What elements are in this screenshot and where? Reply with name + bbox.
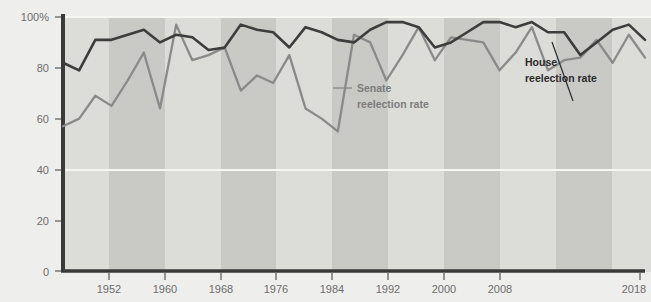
x-tick-label-2008: 2008	[488, 283, 512, 295]
band-light	[62, 17, 109, 272]
x-tick-label-1984: 1984	[320, 283, 344, 295]
y-tick-label-0: 0	[43, 266, 49, 278]
band-light	[276, 17, 332, 272]
x-tick-label-2000: 2000	[432, 283, 456, 295]
band-light	[165, 17, 221, 272]
y-tick-label-60: 60	[37, 113, 49, 125]
reelection-rate-chart: 100% 80 60 40 20 0 1952 1960 1968 1976 1…	[0, 0, 651, 302]
senate-annotation-line1: Senate	[357, 82, 392, 94]
x-tick-label-1968: 1968	[209, 283, 233, 295]
band-light	[388, 17, 444, 272]
alternating-bands	[62, 17, 651, 272]
x-tick-label-2018: 2018	[622, 283, 646, 295]
band-dark	[109, 17, 165, 272]
band-dark	[221, 17, 276, 272]
y-tick-label-100: 100%	[21, 11, 49, 23]
y-tick-label-20: 20	[37, 215, 49, 227]
y-tick-label-40: 40	[37, 164, 49, 176]
x-tick-label-1976: 1976	[264, 283, 288, 295]
senate-annotation-line2: reelection rate	[357, 98, 429, 110]
x-tick-label-1952: 1952	[97, 283, 121, 295]
house-annotation-line2: reelection rate	[525, 72, 597, 84]
x-tick-label-1960: 1960	[153, 283, 177, 295]
chart-canvas: 100% 80 60 40 20 0 1952 1960 1968 1976 1…	[0, 0, 651, 302]
y-tick-label-80: 80	[37, 62, 49, 74]
band-dark	[332, 17, 388, 272]
x-tick-label-1992: 1992	[376, 283, 400, 295]
house-annotation-line1: House	[525, 56, 557, 68]
